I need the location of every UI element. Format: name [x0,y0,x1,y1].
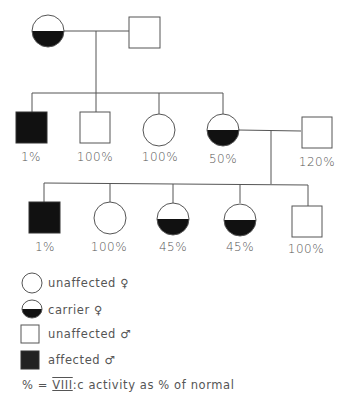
individual-III-3-carrier-female [157,203,189,235]
individual-I-1-carrier-female [32,15,64,47]
label-II-3: 100% [142,150,178,164]
individual-II-3-unaffected-female [143,114,175,146]
legend-note: % = VIII:c activity as % of normal [22,378,235,392]
legend-note-suffix: :c activity as % of normal [73,378,235,392]
individual-III-2-unaffected-female [94,202,126,234]
legend-unaffected-female-icon [22,273,42,293]
label-II-5: 120% [299,155,335,169]
label-II-4: 50% [209,152,237,166]
legend-label-unaffected-male: unaffected ♂ [48,327,131,341]
individual-II-2-unaffected-male [80,112,110,143]
individual-III-5-unaffected-male [292,206,322,237]
legend-carrier-female-icon [22,300,42,318]
label-II-2: 100% [77,150,113,164]
individual-III-4-carrier-female [224,204,256,236]
label-II-1: 1% [21,150,41,164]
individual-II-1-affected-male [16,112,47,143]
legend-label-affected-male: affected ♂ [48,353,115,367]
individual-II-4-carrier-female [207,114,239,146]
legend-label-unaffected-female: unaffected ♀ [48,276,129,290]
individual-II-5-unaffected-male [302,117,332,148]
individual-III-1-affected-male [29,202,60,233]
label-III-3: 45% [159,240,187,254]
label-III-1: 1% [35,240,55,254]
legend-note-prefix: % = [22,378,52,392]
legend-unaffected-male-icon [21,325,39,343]
individual-I-2-unaffected-male [129,17,160,48]
marriage-line-gen2 [238,130,301,131]
label-III-2: 100% [91,240,127,254]
label-III-5: 100% [288,242,324,256]
sibship-line-gen3 [44,183,308,185]
legend-note-factor: VIII [52,378,72,392]
legend-affected-male-icon [21,351,39,369]
legend-label-carrier-female: carrier ♀ [48,303,103,317]
label-III-4: 45% [226,240,254,254]
